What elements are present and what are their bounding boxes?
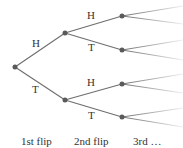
node-ht	[120, 48, 125, 53]
node-h	[63, 31, 68, 36]
column-label-2nd: 2nd flip	[74, 136, 109, 147]
branch-label-t1: T	[32, 84, 39, 95]
column-label-3rd: 3rd …	[133, 136, 161, 147]
branch-label-tt: T	[88, 110, 95, 121]
column-label-1st: 1st flip	[21, 136, 52, 147]
tree-diagram	[0, 0, 183, 148]
node-th	[120, 82, 125, 87]
branch-label-ht: T	[88, 42, 95, 53]
node-tt	[120, 115, 125, 120]
branch-label-th: H	[87, 77, 95, 88]
node-t	[63, 98, 68, 103]
node-hh	[120, 14, 125, 19]
branch-label-h1: H	[32, 38, 40, 49]
edge-root-t	[15, 67, 65, 100]
edge-root-h	[15, 33, 65, 67]
edge-third-level	[122, 6, 183, 127]
node-root	[13, 65, 18, 70]
branch-label-hh: H	[87, 10, 95, 21]
